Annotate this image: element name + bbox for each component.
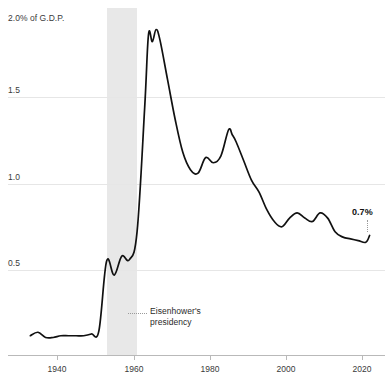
end-value-label: 0.7%: [352, 207, 373, 217]
era-annotation-label: Eisenhower's presidency: [150, 306, 201, 328]
end-value-leader-line: [367, 220, 369, 232]
era-leader-line: [128, 313, 147, 315]
chart-container: 2.0% of G.D.P. 1.51.00.5 194019601980200…: [0, 0, 385, 387]
series-line-federal-spending: [30, 29, 369, 337]
plot-area: [0, 0, 385, 387]
